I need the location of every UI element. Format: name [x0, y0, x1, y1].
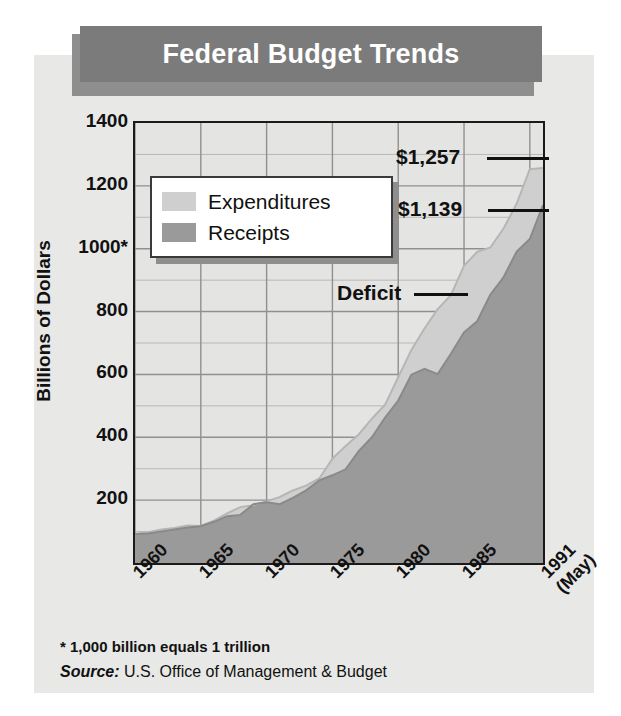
y-tick-label: 800 [96, 299, 128, 321]
footnote-asterisk: * 1,000 billion equals 1 trillion [60, 638, 270, 655]
y-tick-label: 400 [96, 424, 128, 446]
deficit-annotation: Deficit [337, 281, 401, 305]
y-tick-label: 1200 [86, 173, 128, 195]
source-label: Source: [60, 663, 120, 680]
footnote-source: Source: U.S. Office of Management & Budg… [60, 663, 387, 681]
receipts-value-annotation: $1,139 [398, 197, 462, 221]
legend-label-receipts: Receipts [208, 221, 290, 245]
legend-label-expenditures: Expenditures [208, 190, 331, 214]
legend-swatch-expenditures [162, 192, 196, 211]
y-axis-tick-labels: 140012001000*800600400200 [28, 121, 128, 565]
y-tick-label: 1000* [78, 236, 128, 258]
y-tick-label: 200 [96, 487, 128, 509]
title-bar: Federal Budget Trends [80, 26, 542, 82]
legend-item-receipts: Receipts [162, 217, 381, 248]
y-tick-label: 600 [96, 361, 128, 383]
page-title: Federal Budget Trends [163, 39, 460, 70]
expenditures-leader-line [487, 157, 549, 160]
deficit-leader-line [414, 293, 468, 296]
y-tick-label: 1400 [86, 110, 128, 132]
source-text: U.S. Office of Management & Budget [124, 663, 387, 680]
chart-page: Federal Budget Trends Billions of Dollar… [0, 0, 621, 716]
receipts-leader-line [488, 209, 549, 212]
chart-legend: Expenditures Receipts [150, 176, 393, 258]
expenditures-value-annotation: $1,257 [396, 145, 460, 169]
legend-item-expenditures: Expenditures [162, 186, 381, 217]
legend-swatch-receipts [162, 223, 196, 242]
